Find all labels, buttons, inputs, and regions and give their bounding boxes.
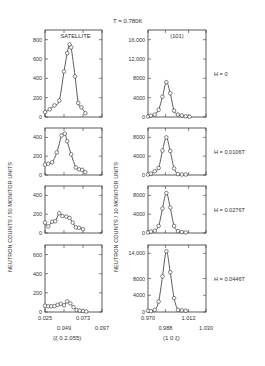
y-tick-label: 14,000 (129, 250, 146, 256)
data-point (176, 172, 180, 176)
data-point (153, 113, 157, 117)
y-tick-label: 0 (142, 172, 145, 178)
y-tick-label: 200 (33, 153, 42, 159)
data-point (84, 111, 88, 115)
data-point (84, 310, 88, 314)
data-point (161, 207, 165, 211)
data-point (46, 162, 50, 166)
data-point (61, 214, 65, 218)
panel-right-2: 040008000H = 0.0106T (133, 128, 246, 178)
data-point (72, 305, 76, 309)
data-point (153, 169, 157, 173)
data-point (69, 302, 73, 306)
y-tick-label: 16,000 (129, 37, 146, 43)
data-point (53, 219, 57, 223)
data-point (63, 132, 67, 136)
y-tick-label: 400 (33, 75, 42, 81)
field-label: H = 0.0106T (214, 149, 246, 155)
data-point (81, 227, 85, 231)
left-x-axis-label: (ξ 0 2.055) (53, 335, 81, 341)
data-point (71, 221, 75, 225)
panel-right-4: 04000800014,0000.9700.9881.0121.030H = 0… (129, 245, 246, 331)
panel-frame (45, 128, 102, 175)
data-point (161, 275, 165, 279)
fit-curve (148, 251, 186, 311)
panel-left-4: 02004006000.0250.0490.0730.097 (33, 245, 109, 331)
y-tick-label: 600 (33, 252, 42, 258)
data-point (80, 106, 84, 110)
data-point (55, 151, 59, 155)
y-tick-label: 8000 (133, 75, 145, 81)
y-tick-label: 800 (33, 37, 42, 43)
data-point (80, 168, 84, 172)
data-point (84, 170, 88, 174)
data-point (157, 224, 161, 228)
data-point (168, 149, 172, 153)
fit-curve (148, 137, 186, 174)
data-point (161, 95, 165, 99)
data-point (57, 99, 61, 103)
data-point (176, 113, 180, 117)
left-y-axis-label: NEUTRON COUNTS / 50 MONITOR UNITS (7, 162, 13, 272)
data-point (48, 107, 52, 111)
y-tick-label: 12,000 (129, 56, 146, 62)
data-point (149, 114, 153, 118)
data-point (172, 109, 176, 113)
x-tick-label: 0.970 (141, 315, 155, 321)
data-point (180, 309, 184, 313)
panel-frame (148, 30, 206, 117)
panel-left-1: 0200400600800SATELLITE (33, 30, 102, 120)
data-point (157, 166, 161, 170)
data-point (172, 224, 176, 228)
data-point (172, 167, 176, 171)
data-point (153, 229, 157, 233)
data-point (43, 221, 47, 225)
y-tick-label: 400 (33, 271, 42, 277)
y-tick-label: 8000 (133, 192, 145, 198)
panel-title: SATELLITE (60, 33, 90, 39)
y-tick-label: 4000 (133, 292, 145, 298)
data-point (149, 309, 153, 313)
data-point (73, 75, 77, 79)
x-tick-label: 0.073 (76, 315, 90, 321)
data-point (69, 153, 73, 157)
y-tick-label: 4000 (133, 95, 145, 101)
right-y-axis-label: NEUTRON COUNTS / 10 MONITOR UNITS (113, 162, 119, 272)
data-point (69, 46, 73, 50)
figure: T = 0.780K NEUTRON COUNTS / 50 MONITOR U… (0, 0, 265, 366)
data-point (65, 139, 69, 143)
data-point (180, 173, 184, 177)
data-point (68, 216, 72, 220)
field-label: H = 0.0446T (214, 276, 246, 282)
panel-left-3: 0200400 (33, 186, 102, 236)
panel-frame (45, 186, 102, 233)
y-tick-label: 4000 (133, 211, 145, 217)
data-point (161, 149, 165, 153)
y-tick-label: 600 (33, 56, 42, 62)
x-tick-label: 0.097 (95, 325, 109, 331)
data-point (53, 104, 57, 108)
data-point (46, 225, 50, 229)
data-point (168, 92, 172, 96)
data-point (50, 161, 54, 165)
data-point (165, 249, 169, 253)
data-point (176, 308, 180, 312)
data-point (184, 309, 188, 313)
y-tick-label: 200 (33, 290, 42, 296)
y-tick-label: 200 (33, 211, 42, 217)
data-point (184, 173, 188, 177)
data-point (62, 70, 66, 74)
right-x-axis-label: (1 0 ξ) (163, 335, 180, 341)
panel-left-2: 0200400 (33, 128, 102, 178)
data-point (168, 270, 172, 274)
data-point (188, 115, 192, 119)
data-point (157, 300, 161, 304)
data-point (180, 230, 184, 234)
data-point (180, 114, 184, 118)
y-tick-label: 400 (33, 192, 42, 198)
y-tick-label: 0 (39, 114, 42, 120)
fit-curve (45, 133, 85, 172)
y-tick-label: 200 (33, 95, 42, 101)
data-point (62, 304, 66, 308)
panel-right-1: 04000800012,00016,000(101)H = 0 (129, 30, 228, 120)
